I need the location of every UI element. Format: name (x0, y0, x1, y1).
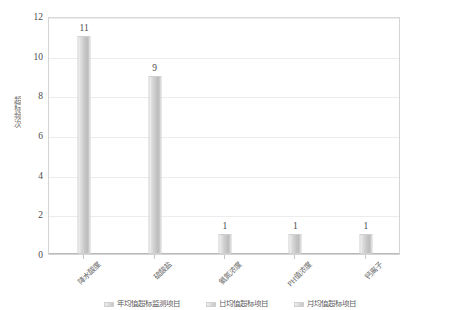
legend-swatch-icon (104, 302, 114, 307)
legend-label: 日均值超标项目 (219, 300, 268, 308)
legend-item[interactable]: 日均值超标项目 (206, 300, 268, 308)
legend-swatch-icon (294, 302, 304, 307)
legend-item[interactable]: 月均值超标项目 (294, 300, 356, 308)
chart-legend: 年均值超标监测项目日均值超标项目月均值超标项目 (104, 300, 356, 310)
legend-item[interactable]: 年均值超标监测项目 (104, 300, 180, 308)
legend-label: 月均值超标项目 (307, 300, 356, 308)
legend-swatch-icon (206, 302, 216, 307)
legend-label: 年均值超标监测项目 (117, 300, 180, 308)
x-axis-category-label: 钙离子 (364, 261, 385, 282)
x-axis-category-label: 氨氮浓度 (218, 261, 243, 286)
x-axis-category-label: 硫酸盐 (153, 261, 174, 282)
x-axis-category-label: PH值浓度 (287, 261, 314, 288)
bar-chart: 超标频次 024681012 119111 降水酸度硫酸盐氨氮浓度PH值浓度钙离… (0, 0, 456, 310)
x-axis-category-label: 降水酸度 (77, 261, 102, 286)
x-axis-labels: 降水酸度硫酸盐氨氮浓度PH值浓度钙离子 (0, 0, 456, 310)
